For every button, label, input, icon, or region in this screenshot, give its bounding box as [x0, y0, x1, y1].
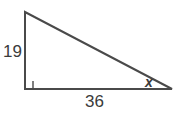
vertical-leg-length-label: 19: [3, 43, 22, 60]
geometry-figure: 19 36 x: [0, 0, 185, 117]
horizontal-leg-length-label: 36: [85, 93, 104, 110]
right-angle-marker-icon: [25, 81, 33, 89]
unknown-angle-label: x: [145, 74, 153, 91]
